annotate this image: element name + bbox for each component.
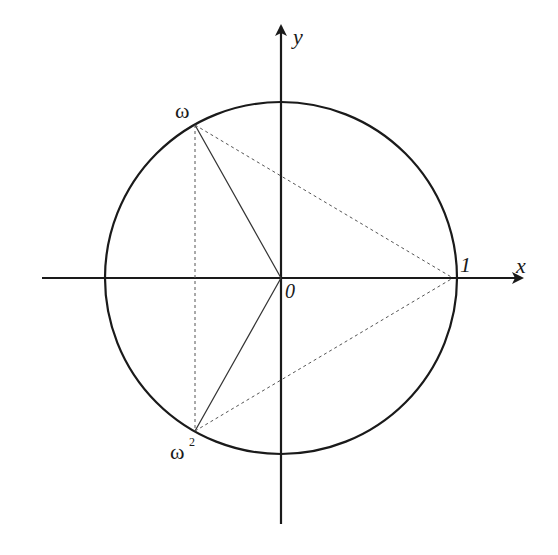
omega-label: ω [175, 98, 189, 123]
dashed-omega-to-one [195, 125, 453, 278]
omega-squared-exponent: 2 [189, 435, 195, 449]
radius-omega-squared [195, 278, 281, 431]
radius-omega [195, 125, 281, 278]
omega-squared-label: ω [170, 439, 184, 464]
origin-label: 0 [285, 280, 295, 302]
one-label: 1 [460, 252, 471, 277]
dashed-omega-squared-to-one [195, 278, 453, 431]
x-axis-label: x [515, 253, 526, 278]
diagram-canvas: y x 0 1 ω ω 2 [0, 0, 558, 555]
y-axis-label: y [291, 24, 303, 49]
